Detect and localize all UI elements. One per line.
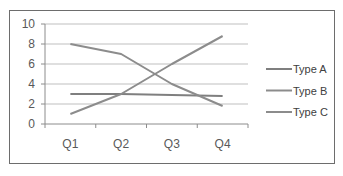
series-line-type-b	[70, 44, 222, 106]
y-tick-label: 8	[28, 37, 35, 51]
y-tick-label: 6	[28, 57, 35, 71]
gridlines	[45, 24, 248, 104]
x-axis-tick-labels: Q1Q2Q3Q4	[62, 137, 231, 151]
y-tick-label: 10	[22, 17, 36, 31]
legend: Type AType BType C	[266, 63, 328, 118]
x-tick-label: Q3	[164, 137, 180, 151]
y-tick-label: 0	[28, 117, 35, 131]
legend-label: Type A	[293, 63, 327, 75]
legend-label: Type C	[293, 106, 328, 118]
x-tick-label: Q2	[113, 137, 129, 151]
y-tick-label: 2	[28, 97, 35, 111]
y-tick-label: 4	[28, 77, 35, 91]
line-chart: 0246810 Q1Q2Q3Q4 Type AType BType C	[0, 0, 343, 176]
y-axis-tick-labels: 0246810	[22, 17, 36, 131]
data-series	[70, 36, 222, 114]
x-tick-label: Q4	[215, 137, 231, 151]
x-tick-label: Q1	[62, 137, 78, 151]
legend-label: Type B	[293, 85, 327, 97]
